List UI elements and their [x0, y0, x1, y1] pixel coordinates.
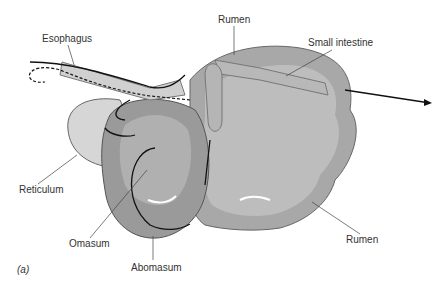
label-rumen-bottom: Rumen [346, 234, 378, 245]
figure-label: (a) [17, 264, 29, 275]
label-rumen-top: Rumen [218, 14, 250, 25]
label-reticulum: Reticulum [19, 184, 63, 195]
label-esophagus: Esophagus [42, 33, 92, 44]
label-omasum: Omasum [69, 238, 110, 249]
label-small-intestine: Small intestine [308, 37, 373, 48]
exit-arrow [345, 90, 430, 103]
label-abomasum: Abomasum [131, 262, 182, 273]
ruminant-stomach-diagram: Esophagus Rumen Small intestine Reticulu… [0, 0, 448, 282]
